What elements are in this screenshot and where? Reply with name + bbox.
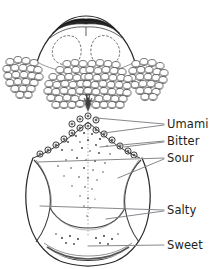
label-sour: Sour — [167, 152, 194, 164]
label-bitter: Bitter — [167, 135, 200, 147]
lingual-tonsil-left — [3, 57, 43, 99]
umami-leader-b — [104, 125, 164, 133]
lingual-tonsil-right — [128, 59, 168, 101]
circumvallate-papillae — [37, 113, 137, 158]
tongue-anatomy-figure: Umami Bitter Sour Salty Sweet — [0, 0, 211, 269]
label-umami: Umami — [167, 118, 209, 130]
label-sweet: Sweet — [167, 239, 203, 251]
label-salty: Salty — [167, 204, 196, 216]
umami-leader-a — [96, 118, 164, 124]
